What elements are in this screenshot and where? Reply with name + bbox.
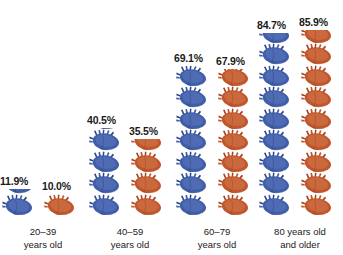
category-label-line1: 40–59 <box>87 225 173 238</box>
category-label: 40–59years old <box>87 225 173 251</box>
heart-icon <box>301 65 335 87</box>
heart-stack <box>259 33 297 215</box>
heart-icon <box>2 194 36 216</box>
heart-icon <box>218 194 252 216</box>
heart-icon <box>131 151 165 173</box>
heart-icon <box>301 108 335 130</box>
heart-icon <box>218 172 252 194</box>
group-columns <box>87 0 173 215</box>
heart-icon <box>301 194 335 216</box>
heart-icon-partial <box>89 128 123 129</box>
heart-icon <box>176 151 210 173</box>
heart-icon <box>259 194 293 216</box>
heart-icon-partial <box>176 66 210 86</box>
heart-icon <box>176 86 210 108</box>
heart-stack <box>131 139 169 215</box>
category-label-line1: 60–79 <box>174 225 260 238</box>
heart-icon <box>301 129 335 151</box>
category-label: 80 years oldand older <box>257 225 343 251</box>
heart-icon <box>176 172 210 194</box>
category-label-line2: years old <box>87 238 173 251</box>
heart-icon-partial <box>2 189 36 193</box>
heart-icon <box>131 194 165 216</box>
heart-icon <box>44 194 78 216</box>
heart-icon <box>218 86 252 108</box>
group-columns <box>257 0 343 215</box>
heart-icon <box>259 129 293 151</box>
heart-icon <box>301 172 335 194</box>
category-label-line2: and older <box>257 238 343 251</box>
heart-icon <box>218 129 252 151</box>
category-label-line1: 80 years old <box>257 225 343 238</box>
heart-icon <box>89 172 123 194</box>
heart-icon <box>301 86 335 108</box>
heart-stack <box>2 189 40 215</box>
heart-icon <box>89 194 123 216</box>
heart-icon <box>176 108 210 130</box>
heart-icon <box>259 172 293 194</box>
heart-icon <box>89 129 123 151</box>
heart-icon-partial <box>301 30 335 43</box>
heart-stack <box>301 30 339 215</box>
heart-icon <box>259 86 293 108</box>
pictograph-chart: 11.9%10.0%20–39years old40.5%35.5%40–59y… <box>0 0 343 255</box>
heart-icon <box>301 151 335 173</box>
heart-stack <box>218 69 256 215</box>
heart-stack <box>89 128 127 215</box>
group-columns <box>0 0 86 215</box>
heart-stack <box>44 194 82 216</box>
heart-icon-partial <box>259 33 293 43</box>
heart-icon <box>218 151 252 173</box>
heart-icon <box>259 65 293 87</box>
heart-icon <box>259 151 293 173</box>
category-label: 20–39years old <box>0 225 86 251</box>
heart-icon <box>301 43 335 65</box>
heart-icon <box>218 108 252 130</box>
heart-icon-partial <box>131 139 165 151</box>
category-label-line2: years old <box>0 238 86 251</box>
category-label-line2: years old <box>174 238 260 251</box>
heart-icon <box>89 151 123 173</box>
heart-icon <box>131 172 165 194</box>
group-columns <box>174 0 260 215</box>
heart-icon-partial <box>218 69 252 86</box>
heart-stack <box>176 66 214 215</box>
heart-icon <box>176 129 210 151</box>
heart-icon <box>259 108 293 130</box>
heart-icon <box>259 43 293 65</box>
category-label: 60–79years old <box>174 225 260 251</box>
category-label-line1: 20–39 <box>0 225 86 238</box>
heart-icon <box>176 194 210 216</box>
